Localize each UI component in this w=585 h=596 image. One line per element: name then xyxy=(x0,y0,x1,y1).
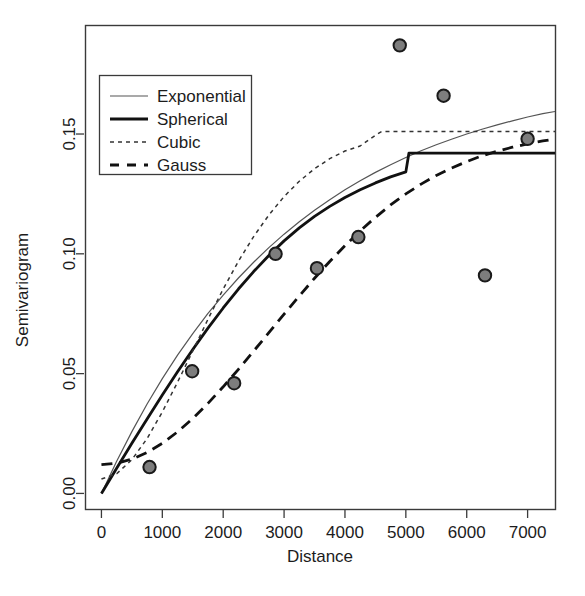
y-axis-title: Semivariogram xyxy=(13,233,32,347)
legend-label-exponential: Exponential xyxy=(157,87,246,106)
x-tick-label: 5000 xyxy=(387,523,425,542)
y-tick-label: 0.00 xyxy=(60,477,79,510)
semivariogram-chart: 01000200030004000500060007000 0.000.050.… xyxy=(0,0,585,596)
data-point xyxy=(394,39,406,51)
x-axis-title: Distance xyxy=(287,547,353,566)
x-tick-label: 0 xyxy=(97,523,106,542)
data-point xyxy=(521,133,533,145)
x-tick-label: 6000 xyxy=(448,523,486,542)
legend-label-cubic: Cubic xyxy=(157,133,201,152)
data-point xyxy=(479,269,491,281)
x-tick-label: 3000 xyxy=(265,523,303,542)
y-axis: 0.000.050.100.15 xyxy=(60,117,84,509)
data-point xyxy=(228,377,240,389)
x-tick-label: 1000 xyxy=(143,523,181,542)
legend-label-gauss: Gauss xyxy=(157,156,206,175)
y-tick-label: 0.05 xyxy=(60,357,79,390)
data-point xyxy=(311,262,323,274)
data-point xyxy=(143,461,155,473)
x-tick-label: 7000 xyxy=(509,523,547,542)
y-tick-label: 0.10 xyxy=(60,237,79,270)
curve-spherical xyxy=(101,153,555,493)
x-tick-label: 4000 xyxy=(326,523,364,542)
chart-canvas: 01000200030004000500060007000 0.000.050.… xyxy=(0,0,585,596)
curve-cubic xyxy=(101,132,555,479)
x-axis: 01000200030004000500060007000 xyxy=(97,510,547,542)
y-tick-label: 0.15 xyxy=(60,117,79,150)
chart-legend: ExponentialSphericalCubicGauss xyxy=(100,76,252,176)
data-point xyxy=(186,365,198,377)
data-point xyxy=(352,231,364,243)
legend-label-spherical: Spherical xyxy=(157,110,228,129)
data-point xyxy=(269,248,281,260)
x-tick-label: 2000 xyxy=(204,523,242,542)
data-point xyxy=(437,89,449,101)
curve-gauss xyxy=(101,139,555,465)
